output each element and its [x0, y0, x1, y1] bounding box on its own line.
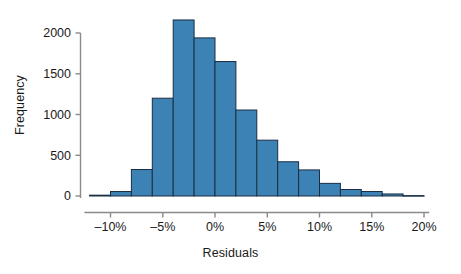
bars-group — [90, 20, 424, 196]
x-axis: –10%–5%0%5%10%15%20% — [84, 213, 436, 234]
plot-area: 0500100015002000 –10%–5%0%5%10%15%20% — [0, 0, 461, 274]
x-axis-title: Residuals — [0, 246, 461, 260]
chart-canvas: 0500100015002000 –10%–5%0%5%10%15%20% — [0, 0, 461, 274]
histogram-bar — [403, 196, 424, 197]
histogram-bar — [152, 98, 173, 196]
histogram-figure: Frequency 0500100015002000 –10%–5%0%5%10… — [0, 0, 461, 274]
histogram-bar — [320, 183, 341, 196]
histogram-bar — [257, 140, 278, 196]
histogram-bar — [215, 62, 236, 196]
y-axis-tick-label: 2000 — [43, 26, 71, 40]
histogram-bar — [194, 38, 215, 196]
x-axis-tick-label: 5% — [258, 220, 276, 234]
y-axis: 0500100015002000 — [43, 26, 80, 203]
histogram-bar — [299, 170, 320, 196]
y-axis-tick-label: 1500 — [43, 67, 71, 81]
y-axis-tick-label: 500 — [50, 149, 71, 163]
x-axis-title-text: Residuals — [203, 246, 259, 260]
histogram-bar — [90, 195, 111, 196]
x-axis-tick-label: 20% — [411, 220, 436, 234]
histogram-bar — [340, 189, 361, 196]
x-axis-tick-label: 10% — [307, 220, 332, 234]
y-axis-tick-label: 0 — [64, 189, 71, 203]
y-axis-tick-label: 1000 — [43, 108, 71, 122]
histogram-bar — [278, 162, 299, 196]
x-axis-tick-label: –10% — [95, 220, 127, 234]
histogram-bar — [131, 170, 152, 196]
histogram-bar — [361, 192, 382, 196]
x-axis-tick-label: –5% — [150, 220, 175, 234]
histogram-bar — [382, 194, 403, 196]
histogram-bar — [173, 20, 194, 196]
histogram-bar — [236, 110, 257, 196]
histogram-bar — [111, 192, 132, 196]
x-axis-tick-label: 0% — [206, 220, 224, 234]
x-axis-tick-label: 15% — [359, 220, 384, 234]
